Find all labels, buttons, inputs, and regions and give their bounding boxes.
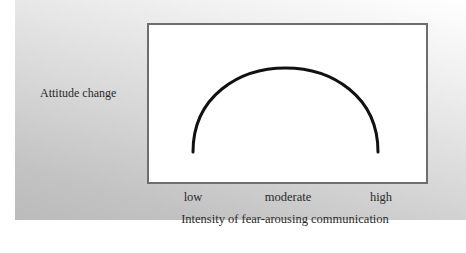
x-tick-moderate: moderate — [265, 190, 312, 205]
plot-area — [147, 23, 428, 184]
x-tick-low: low — [184, 190, 203, 205]
x-axis-label: Intensity of fear-arousing communication — [181, 212, 389, 227]
y-axis-label: Attitude change — [40, 86, 116, 101]
x-tick-high: high — [370, 190, 392, 205]
